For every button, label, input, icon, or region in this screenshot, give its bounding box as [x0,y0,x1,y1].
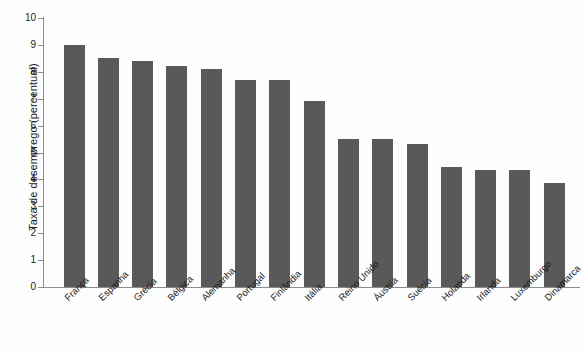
bar [235,80,256,287]
y-tick-label-text: 1 [2,255,36,265]
bar [509,170,530,287]
bar-chart-figure: Taxa de desemprego (percentual) 01234567… [0,0,587,349]
y-tick-label-text: 4 [2,174,36,184]
y-tick-label-text: 0 [2,282,36,292]
y-tick-label-text: 9 [2,40,36,50]
y-tick-label: 0 [0,282,36,292]
bar [441,167,462,287]
y-tick-label-text: 2 [2,228,36,238]
y-tick-label-text: 7 [2,94,36,104]
y-tick-mark [38,287,44,288]
y-tick-label: 7 [0,94,36,104]
bar [269,80,290,287]
bar [407,144,428,287]
y-tick-label: 10 [0,13,36,23]
bar [201,69,222,287]
bar [166,66,187,287]
y-tick-label: 9 [0,40,36,50]
y-tick-label: 8 [0,67,36,77]
y-tick-label-text: 6 [2,121,36,131]
bar [98,58,119,287]
y-tick-label-text: 10 [2,13,36,23]
y-tick-label: 2 [0,228,36,238]
y-tick-label-text: 3 [2,201,36,211]
plot-area [44,18,579,287]
y-tick-label: 4 [0,174,36,184]
y-tick-label: 5 [0,148,36,158]
bar [475,170,496,287]
y-tick-label-text: 5 [2,148,36,158]
y-tick-label: 3 [0,201,36,211]
bar [132,61,153,287]
y-tick-label: 6 [0,121,36,131]
y-tick-label-text: 8 [2,67,36,77]
bar [64,45,85,287]
bar [304,101,325,287]
bar [338,139,359,287]
y-tick-label: 1 [0,255,36,265]
